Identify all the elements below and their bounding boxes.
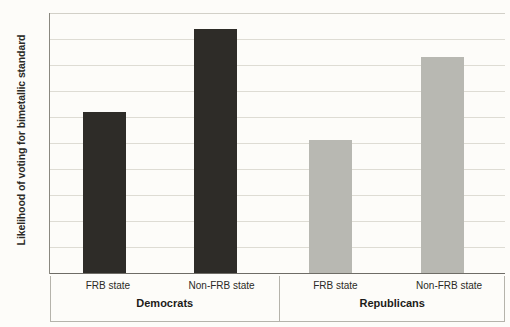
plot-area: 10.90.80.70.60.50.40.30.20.10 [50, 13, 505, 273]
category-label: Non-FRB state [392, 280, 506, 291]
group-label: Democrats [51, 297, 279, 309]
group-label: Republicans [279, 297, 507, 309]
gridline [50, 39, 505, 40]
x-axis-baseline [50, 273, 505, 274]
category-label: FRB state [279, 280, 393, 291]
bar[interactable] [83, 112, 126, 273]
bar-chart: Likelihood of voting for bimetallic stan… [0, 0, 510, 327]
y-axis-title: Likelihood of voting for bimetallic stan… [15, 15, 27, 265]
gridline [50, 13, 505, 14]
category-label: FRB state [51, 280, 165, 291]
bar[interactable] [421, 57, 464, 273]
bar[interactable] [309, 140, 352, 273]
bar[interactable] [194, 29, 237, 273]
category-label: Non-FRB state [165, 280, 279, 291]
category-label-box: FRB stateNon-FRB stateFRB stateNon-FRB s… [50, 276, 505, 322]
